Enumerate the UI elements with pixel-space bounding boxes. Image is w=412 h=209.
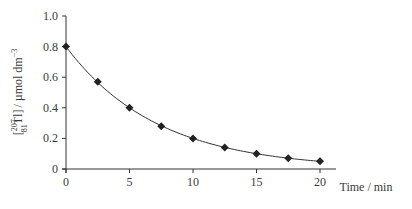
y-axis-label: [20781Tl]/ µmol dm−3: [10, 49, 29, 135]
data-markers: [62, 43, 324, 166]
decay-chart: 00.20.40.60.81.0 05101520 Time / min [20…: [0, 0, 412, 209]
data-point-diamond: [189, 134, 197, 142]
data-point-diamond: [284, 154, 292, 162]
fit-curve: [66, 47, 320, 162]
data-point-diamond: [253, 150, 261, 158]
data-point-diamond: [221, 144, 229, 152]
x-tick-label: 20: [314, 175, 326, 189]
y-tick-label: 0: [52, 162, 58, 176]
y-tick-label: 0.6: [43, 70, 58, 84]
data-point-diamond: [316, 157, 324, 165]
x-tick-label: 5: [127, 175, 133, 189]
x-tick-label: 15: [251, 175, 263, 189]
axes: [62, 16, 336, 173]
y-axis-ticks: 00.20.40.60.81.0: [43, 9, 66, 176]
x-tick-label: 0: [63, 175, 69, 189]
y-tick-label: 0.4: [43, 101, 58, 115]
x-axis-ticks: 05101520: [63, 169, 326, 189]
data-point-diamond: [126, 104, 134, 112]
x-axis-label: Time / min: [340, 180, 393, 194]
y-tick-label: 1.0: [43, 9, 58, 23]
y-tick-label: 0.8: [43, 40, 58, 54]
x-tick-label: 10: [187, 175, 199, 189]
data-point-diamond: [62, 43, 70, 51]
data-point-diamond: [157, 122, 165, 130]
y-tick-label: 0.2: [43, 131, 58, 145]
